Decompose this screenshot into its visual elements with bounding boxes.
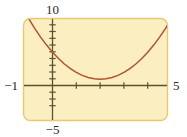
plot-area-background bbox=[24, 19, 168, 121]
parabola-figure: 10 −5 −1 5 bbox=[0, 0, 187, 137]
x-min-label: −1 bbox=[4, 78, 18, 93]
graph-canvas: 10 −5 −1 5 bbox=[0, 0, 187, 137]
x-max-label: 5 bbox=[173, 78, 180, 93]
y-max-label: 10 bbox=[46, 2, 59, 17]
y-min-label: −5 bbox=[46, 122, 60, 137]
